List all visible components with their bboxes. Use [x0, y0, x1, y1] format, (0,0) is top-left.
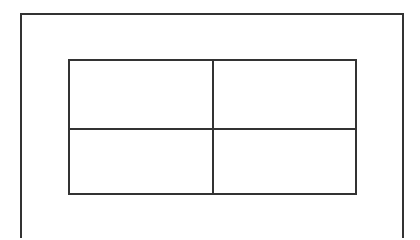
- grid-cell-top-right: [214, 61, 355, 128]
- grid-cell-bottom-left: [70, 130, 212, 193]
- grid-cell-top-left: [70, 61, 212, 128]
- grid-cell-bottom-right: [214, 130, 355, 193]
